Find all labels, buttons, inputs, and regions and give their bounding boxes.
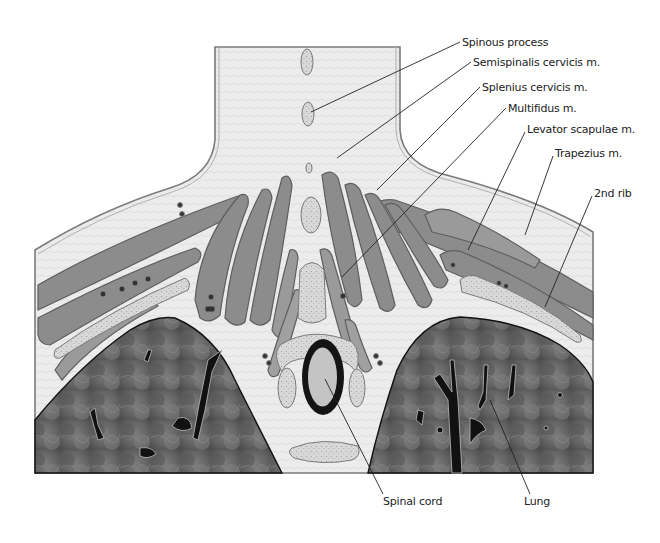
label-multifidus: Multifidus m. <box>508 102 577 115</box>
label-second-rib: 2nd rib <box>594 187 632 200</box>
label-trapezius: Trapezius m. <box>555 147 622 160</box>
label-splenius-cervicis: Splenius cervicis m. <box>482 81 587 94</box>
label-spinal-cord: Spinal cord <box>383 495 442 508</box>
label-semispinalis-cervicis: Semispinalis cervicis m. <box>473 56 600 69</box>
right-transverse-process <box>349 369 365 407</box>
left-transverse-process <box>278 368 296 408</box>
spinal-cord <box>308 348 337 407</box>
label-lung: Lung <box>524 495 550 508</box>
anatomy-figure: Spinous process Semispinalis cervicis m.… <box>0 0 660 543</box>
label-levator-scapulae: Levator scapulae m. <box>527 123 635 136</box>
label-spinous-process: Spinous process <box>462 36 548 49</box>
